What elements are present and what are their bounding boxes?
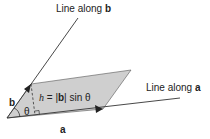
vector-a-label: a <box>60 124 66 135</box>
height-formula: h = |b| sin θ <box>39 92 91 103</box>
line-along-b-label: Line along b <box>56 3 111 14</box>
line-along-a-label: Line along a <box>146 82 201 93</box>
parallelogram-diagram: Line along b Line along a b a θ h = |b| … <box>0 0 210 139</box>
theta-label: θ <box>24 106 30 117</box>
vector-b-label: b <box>9 97 15 108</box>
